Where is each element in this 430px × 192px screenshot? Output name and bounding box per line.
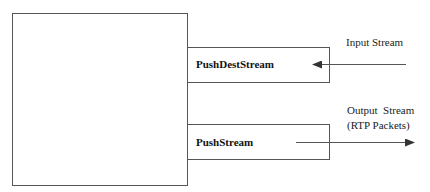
rtp-packets-label: (RTP Packets) bbox=[347, 119, 410, 132]
output-stream-label: Output Stream bbox=[347, 104, 415, 116]
push-dest-stream-box: PushDestStream bbox=[188, 48, 330, 83]
main-block bbox=[13, 14, 188, 186]
stream-diagram: PushDestStream PushStream Input Stream O… bbox=[0, 0, 430, 192]
push-dest-stream-label: PushDestStream bbox=[196, 58, 274, 70]
input-stream-label: Input Stream bbox=[346, 36, 404, 48]
push-stream-label: PushStream bbox=[196, 136, 253, 148]
